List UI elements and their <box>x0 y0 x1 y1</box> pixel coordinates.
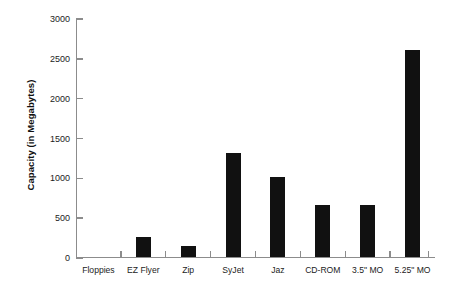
bar <box>136 237 151 257</box>
y-axis-tick <box>76 98 83 99</box>
x-axis-tick <box>255 251 256 258</box>
bar <box>360 205 375 257</box>
y-axis-tick <box>76 18 83 19</box>
y-axis-tick-label: 3000 <box>36 14 70 24</box>
x-axis-tick <box>389 251 390 258</box>
x-axis-tick <box>300 251 301 258</box>
y-axis-tick <box>76 138 83 139</box>
bar <box>315 205 330 257</box>
x-axis-tick-label: Zip <box>166 264 211 276</box>
x-axis-tick-label: EZ Flyer <box>121 264 166 276</box>
x-axis-tick-labels: FloppiesEZ FlyerZipSyJetJazCD-ROM3.5" MO… <box>76 264 435 278</box>
x-axis-tick-label: 3.5" MO <box>345 264 390 276</box>
x-axis-tick-label: CD-ROM <box>300 264 345 276</box>
y-axis-tick-label: 1500 <box>36 134 70 144</box>
y-axis-tick-label: 2000 <box>36 94 70 104</box>
x-axis-tick-label: SyJet <box>211 264 256 276</box>
x-axis-tick <box>210 251 211 258</box>
x-axis-tick-label: Floppies <box>76 264 121 276</box>
y-axis-tick <box>76 58 83 59</box>
bar-chart: Capacity (in Megabytes) 3000250020001500… <box>0 0 456 295</box>
y-axis-tick <box>76 257 83 258</box>
y-axis-tick-label: 2500 <box>36 54 70 64</box>
plot-area <box>76 19 435 258</box>
x-axis-tick <box>165 251 166 258</box>
y-axis-tick <box>76 178 83 179</box>
bar <box>181 246 196 257</box>
y-axis-tick-labels: 300025002000150010005000 <box>36 19 70 258</box>
bar <box>270 177 285 257</box>
bar <box>405 50 420 257</box>
x-axis-tick <box>345 251 346 258</box>
x-axis-right-cap <box>428 251 429 258</box>
y-axis-tick-label: 0 <box>36 253 70 263</box>
y-axis-tick-label: 500 <box>36 213 70 223</box>
x-axis-tick-label: 5.25" MO <box>390 264 435 276</box>
y-axis-tick-label: 1000 <box>36 173 70 183</box>
x-axis-tick <box>120 251 121 258</box>
x-axis-tick-label: Jaz <box>256 264 301 276</box>
bar <box>226 153 241 257</box>
y-axis-tick <box>76 217 83 218</box>
